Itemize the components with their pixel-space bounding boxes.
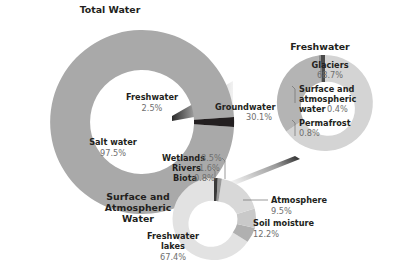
label-atmosphere-name: Atmosphere — [271, 195, 328, 205]
label-biota-value: 0.8% — [194, 173, 215, 183]
label-freshwater-name: Freshwater — [126, 92, 179, 102]
label-glaciers-value: 68.7% — [317, 70, 343, 80]
label-salt-water-value: 97.5% — [100, 148, 126, 158]
label-soil-moisture-name: Soil moisture — [253, 218, 315, 228]
label-wetlands-name: Wetlands — [162, 153, 205, 163]
chart-freshwater: Freshwater Glaciers 68.7% Groundwater 30… — [215, 41, 373, 151]
label-freshwater-lakes-line1: Freshwater — [147, 231, 200, 241]
chart-surface-atmospheric-water: Surface and Atmospheric Water Wetlands 8… — [105, 153, 328, 262]
label-salt-water-name: Salt water — [89, 137, 138, 147]
label-groundwater-value: 30.1% — [246, 112, 272, 122]
label-glaciers-name: Glaciers — [311, 60, 348, 70]
surface-atm-title-line1: Surface and — [106, 191, 169, 202]
freshwater-title: Freshwater — [290, 41, 350, 52]
label-freshwater-lakes-value: 67.4% — [160, 252, 186, 262]
surface-atm-title-line2: Atmospheric — [105, 202, 172, 213]
total-water-title: Total Water — [80, 4, 141, 15]
label-surface-atm-line3: water — [299, 104, 327, 114]
label-wetlands-value: 8.5% — [201, 153, 222, 163]
label-permafrost-value: 0.8% — [299, 128, 320, 138]
label-groundwater-name: Groundwater — [215, 102, 276, 112]
water-distribution-figure: Total Water Freshwater 2.5% Salt water 9… — [0, 0, 411, 271]
label-permafrost-name: Permafrost — [299, 118, 351, 128]
surface-atm-title-line3: Water — [122, 213, 154, 224]
label-rivers-value: 1.6% — [199, 163, 220, 173]
label-rivers-name: Rivers — [172, 163, 201, 173]
figure-svg: Total Water Freshwater 2.5% Salt water 9… — [0, 0, 411, 271]
label-soil-moisture-value: 12.2% — [253, 229, 279, 239]
label-surface-atm-value: 0.4% — [327, 104, 348, 114]
label-surface-atm-line2: atmospheric — [299, 94, 357, 104]
label-freshwater-value: 2.5% — [142, 103, 163, 113]
label-surface-atm-line1: Surface and — [299, 84, 354, 94]
label-atmosphere-value: 9.5% — [271, 206, 292, 216]
label-freshwater-lakes-line2: lakes — [161, 241, 185, 251]
